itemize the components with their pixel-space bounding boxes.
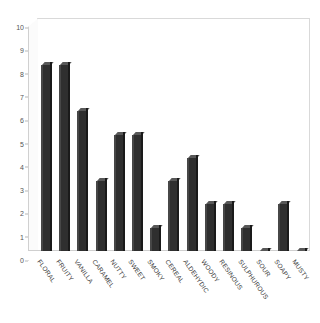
y-axis-tick-mark [25,190,28,191]
bar[interactable] [41,65,50,251]
bar[interactable] [168,181,177,251]
bar-side-face [196,155,198,251]
y-axis-tick: 6 [2,117,24,124]
x-axis-label: SOUR [255,258,272,278]
bar[interactable] [205,204,214,251]
x-axis-label: SMOKY [146,258,166,282]
y-axis-tick-mark [25,144,28,145]
y-axis-tick: 0 [2,257,24,264]
bar-front-highlight [150,228,152,251]
bar-side-face [305,248,307,251]
bars-layer [37,18,310,251]
bar-side-face [105,178,107,251]
bar-front-highlight [77,111,79,251]
bar-side-face [177,178,179,251]
bar-front-highlight [59,65,61,251]
y-axis-tick: 2 [2,210,24,217]
bar-front-highlight [278,204,280,251]
bar-side-face [214,201,216,251]
y-axis-tick: 3 [2,187,24,194]
bar[interactable] [77,111,86,251]
y-axis-tick: 10 [2,24,24,31]
y-axis-tick: 8 [2,70,24,77]
bar[interactable] [132,135,141,252]
bar-side-face [159,225,161,251]
bar[interactable] [114,135,123,252]
bar-side-face [287,201,289,251]
x-axis-label: MUSTY [292,258,311,281]
plot-area: 012345678910 [28,18,310,260]
bar-front-highlight [168,181,170,251]
bar-front-highlight [96,181,98,251]
bar-side-face [123,132,125,252]
y-axis-tick-mark [25,50,28,51]
bar-front-highlight [223,204,225,251]
y-axis-tick: 9 [2,47,24,54]
bar[interactable] [59,65,68,251]
bar-side-face [250,225,252,251]
y-axis-tick: 4 [2,163,24,170]
bar[interactable] [241,228,250,251]
y-axis-tick-mark [25,97,28,98]
bar[interactable] [96,181,105,251]
y-axis-tick: 7 [2,93,24,100]
bar[interactable] [187,158,196,251]
bar-side-face [268,248,270,251]
bar-front-highlight [205,204,207,251]
bar[interactable] [223,204,232,251]
bar-side-face [50,62,52,251]
bar-side-face [86,108,88,251]
y-axis-tick-mark [25,120,28,121]
x-axis-labels: FLORALFRUITYVANILLACARAMELNUTTYSWEETSMOK… [28,258,310,320]
y-axis-tick: 1 [2,233,24,240]
y-axis-tick-mark [25,167,28,168]
bar[interactable] [278,204,287,251]
bar-front-highlight [114,135,116,252]
bar-chart: 012345678910 FLORALFRUITYVANILLACARAMELN… [0,0,320,323]
y-axis-tick: 5 [2,140,24,147]
y-axis-tick-mark [25,213,28,214]
x-axis-label: SWEET [128,258,148,282]
bar[interactable] [150,228,159,251]
x-axis-label: SOAPY [273,258,292,281]
bar-side-face [232,201,234,251]
y-axis-tick-mark [25,74,28,75]
bar-side-face [68,62,70,251]
bar-side-face [141,132,143,252]
bar-front-highlight [132,135,134,252]
bar-front-highlight [187,158,189,251]
bar-front-highlight [41,65,43,251]
x-axis-label: NUTTY [110,258,129,281]
x-axis-label: FRUITY [55,258,75,282]
y-axis-tick-mark [25,27,28,28]
y-axis-tick-mark [25,237,28,238]
bar-front-highlight [241,228,243,251]
